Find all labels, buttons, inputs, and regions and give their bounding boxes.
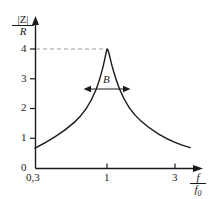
y-tick-label-1: 1 bbox=[21, 132, 27, 143]
x-axis-label: f f0 bbox=[190, 172, 206, 199]
resonance-curve bbox=[35, 49, 190, 148]
resonance-curve-figure: |Z| R f f0 4 3 2 1 0 0,3 1 3 B bbox=[0, 0, 215, 199]
x-tick-label-0-3: 0,3 bbox=[26, 172, 40, 183]
y-tick-label-3: 3 bbox=[21, 73, 27, 84]
bandwidth-label: B bbox=[103, 73, 110, 85]
x-tick-label-3: 3 bbox=[172, 172, 178, 183]
y-tick-label-4: 4 bbox=[21, 43, 27, 54]
y-axis-label: |Z| R bbox=[12, 14, 34, 37]
x-axis-label-numerator: f bbox=[190, 172, 206, 183]
y-axis-label-denominator: R bbox=[12, 25, 34, 37]
y-axis-label-numerator: |Z| bbox=[12, 14, 34, 25]
x-tick-label-1: 1 bbox=[104, 172, 110, 183]
bandwidth-arrowhead-left bbox=[84, 86, 92, 92]
x-axis-label-denominator: f0 bbox=[190, 183, 206, 198]
x-axis-label-denominator-subscript: 0 bbox=[198, 189, 202, 198]
bandwidth-arrowhead-right bbox=[123, 86, 131, 92]
y-tick-label-2: 2 bbox=[21, 102, 27, 113]
